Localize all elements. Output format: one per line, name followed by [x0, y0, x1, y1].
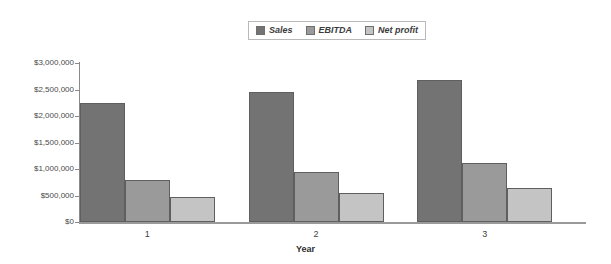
y-axis-tick-mark: [75, 196, 79, 197]
legend-item-ebitda: EBITDA: [306, 26, 353, 35]
y-axis-tick-label: $2,000,000: [34, 112, 74, 120]
y-axis-tick-mark: [75, 222, 79, 223]
bar-ebitda-year-1: [125, 180, 170, 222]
y-axis-tick-label: $1,500,000: [34, 139, 74, 147]
bar-net-profit-year-2: [339, 193, 384, 222]
y-axis-tick-mark: [75, 143, 79, 144]
bar-ebitda-year-3: [462, 163, 507, 222]
legend-swatch-sales: [256, 26, 265, 35]
x-axis-line: [79, 222, 586, 224]
y-axis-tick-label: $1,000,000: [34, 165, 74, 173]
legend-label-ebitda: EBITDA: [319, 26, 353, 35]
bar-sales-year-3: [417, 80, 462, 222]
x-axis-label-year-1: 1: [145, 230, 150, 239]
legend-swatch-net-profit: [365, 26, 374, 35]
y-axis-tick-mark: [75, 169, 79, 170]
y-axis-tick-label: $3,000,000: [34, 59, 74, 67]
x-axis-label-year-2: 2: [313, 230, 318, 239]
plot-area: $0$500,000$1,000,000$1,500,000$2,000,000…: [79, 63, 585, 222]
bar-net-profit-year-1: [170, 197, 215, 222]
y-axis-tick-mark: [75, 90, 79, 91]
y-axis-tick-label: $2,500,000: [34, 86, 74, 94]
bar-sales-year-2: [249, 92, 294, 222]
bar-ebitda-year-2: [294, 172, 339, 222]
y-axis-tick-label: $0: [65, 218, 74, 226]
legend-label-net-profit: Net profit: [378, 26, 418, 35]
legend-label-sales: Sales: [269, 26, 293, 35]
legend-swatch-ebitda: [306, 26, 315, 35]
y-axis-tick-label: $500,000: [41, 192, 74, 200]
y-axis-tick-mark: [75, 116, 79, 117]
legend-item-sales: Sales: [256, 26, 293, 35]
y-axis-tick-mark: [75, 63, 79, 64]
legend-item-net-profit: Net profit: [365, 26, 418, 35]
x-axis-label-year-3: 3: [482, 230, 487, 239]
bar-net-profit-year-3: [507, 188, 552, 222]
bar-chart: Sales EBITDA Net profit $0$500,000$1,000…: [0, 0, 611, 264]
chart-legend: Sales EBITDA Net profit: [248, 21, 426, 40]
x-axis-title: Year: [0, 245, 611, 254]
bar-sales-year-1: [80, 103, 125, 222]
